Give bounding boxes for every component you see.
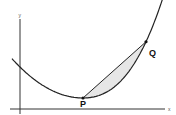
point-p-label: P: [80, 99, 86, 109]
point-q-label: Q: [149, 48, 156, 58]
curve: [12, 0, 165, 98]
point-q: [144, 40, 147, 43]
y-axis-label: y: [19, 12, 22, 18]
x-axis-label: x: [168, 106, 171, 112]
diagram-canvas: y x P Q: [0, 0, 176, 115]
secant-line-pq: [83, 42, 146, 98]
